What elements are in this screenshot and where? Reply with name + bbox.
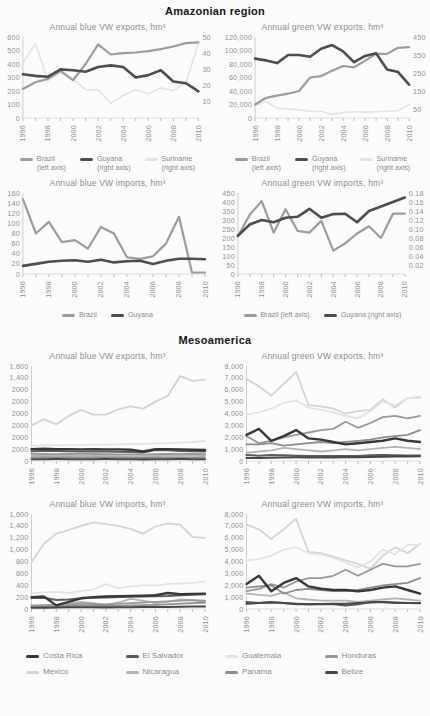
svg-text:80,000: 80,000	[229, 60, 252, 69]
svg-text:8,000: 8,000	[225, 510, 244, 519]
legend-item: Belize	[325, 667, 421, 677]
legend-item: Nicaragua	[126, 667, 222, 677]
svg-text:2000: 2000	[77, 616, 86, 633]
svg-text:100: 100	[7, 219, 20, 228]
legend-swatch	[235, 158, 248, 161]
mesoamerica-chart-grid: Annual blue VW exports, hm³ 1,6001,40020…	[0, 349, 430, 645]
svg-text:400: 400	[16, 581, 29, 590]
legend-swatch	[20, 158, 33, 161]
svg-text:400: 400	[222, 198, 235, 207]
legend-item: Guatemala	[225, 651, 321, 661]
svg-text:0.04: 0.04	[409, 252, 424, 261]
svg-text:20: 20	[11, 259, 19, 268]
svg-text:100,000: 100,000	[225, 46, 252, 55]
svg-text:1998: 1998	[257, 281, 266, 298]
chart-card-amz-blue-imports: Annual blue VW imports, hm³ 160140120100…	[0, 176, 215, 332]
legend-label: Nicaragua	[143, 667, 179, 677]
svg-text:2000: 2000	[70, 281, 79, 298]
svg-text:20,000: 20,000	[229, 100, 252, 109]
svg-text:2000: 2000	[12, 385, 29, 394]
chart-card-amz-green-exports: Annual green VW exports, hm³ 120,000100,…	[215, 20, 430, 176]
svg-text:1996: 1996	[242, 468, 251, 485]
svg-text:0: 0	[24, 605, 28, 614]
legend-item: Brazil (left axis)	[244, 310, 310, 332]
svg-text:2010: 2010	[194, 125, 203, 142]
legend-label: Brazil(left axis)	[252, 154, 281, 172]
legend-item: Guyana(right axis)	[80, 154, 131, 176]
svg-text:2008: 2008	[376, 281, 385, 298]
legend-swatch	[325, 655, 338, 658]
svg-text:2000: 2000	[12, 433, 29, 442]
svg-text:2004: 2004	[119, 125, 128, 142]
legend-swatch	[80, 158, 93, 161]
chart-title: Annual blue VW imports, hm³	[0, 178, 215, 188]
svg-text:1998: 1998	[273, 125, 282, 142]
meso-green-exports-plot: 8,0007,0006,0005,0004,0003,0002,0001,000…	[215, 361, 430, 497]
svg-text:1996: 1996	[18, 281, 27, 298]
svg-text:0.02: 0.02	[409, 261, 424, 270]
svg-text:2002: 2002	[316, 468, 325, 485]
legend-swatch	[225, 671, 238, 674]
svg-text:160: 160	[7, 189, 20, 198]
svg-text:0.08: 0.08	[409, 234, 424, 243]
svg-text:2002: 2002	[316, 616, 325, 633]
legend-item: Brazil(left axis)	[20, 154, 66, 176]
svg-text:7,000: 7,000	[225, 521, 244, 530]
svg-text:2006: 2006	[144, 125, 153, 142]
svg-text:5,000: 5,000	[225, 545, 244, 554]
region-title-mesoamerica: Mesoamerica	[0, 334, 430, 346]
amazonian-chart-grid: Annual blue VW exports, hm³ 600500400300…	[0, 20, 430, 332]
svg-text:0.18: 0.18	[409, 189, 424, 198]
svg-text:0.12: 0.12	[409, 216, 424, 225]
legend-label: Costa Rica	[43, 651, 82, 661]
svg-text:2010: 2010	[416, 468, 425, 485]
svg-text:1998: 1998	[52, 468, 61, 485]
svg-text:20: 20	[202, 81, 210, 90]
svg-text:1998: 1998	[52, 616, 61, 633]
svg-text:2006: 2006	[366, 616, 375, 633]
legend-label: Guatemala	[242, 651, 281, 661]
chart-title: Annual blue VW imports, hm³	[0, 499, 215, 509]
chart-card-meso-blue-imports: Annual blue VW imports, hm³ 1,6001,4001,…	[0, 497, 215, 645]
svg-text:8,000: 8,000	[225, 362, 244, 371]
svg-text:2004: 2004	[339, 125, 348, 142]
svg-text:1,000: 1,000	[225, 445, 244, 454]
legend-swatch	[225, 655, 238, 658]
mesoamerica-legend: Costa RicaEl SalvadorGuatemalaHondurasMe…	[0, 645, 430, 677]
svg-text:30: 30	[202, 65, 210, 74]
svg-text:0: 0	[16, 114, 20, 123]
svg-text:2000: 2000	[295, 125, 304, 142]
svg-text:50: 50	[202, 33, 210, 42]
svg-text:1998: 1998	[44, 281, 53, 298]
svg-text:2004: 2004	[126, 616, 135, 633]
svg-text:2010: 2010	[400, 281, 409, 298]
svg-text:500: 500	[7, 46, 20, 55]
svg-text:1998: 1998	[267, 616, 276, 633]
svg-text:2004: 2004	[126, 468, 135, 485]
svg-text:2002: 2002	[96, 281, 105, 298]
svg-text:0.14: 0.14	[409, 207, 424, 216]
svg-text:0: 0	[24, 457, 28, 466]
svg-text:250: 250	[222, 225, 235, 234]
svg-text:2000: 2000	[12, 409, 29, 418]
legend-label: Guyana(right axis)	[312, 154, 346, 172]
svg-text:2002: 2002	[101, 468, 110, 485]
legend-label: Belize	[342, 667, 364, 677]
svg-text:2002: 2002	[317, 125, 326, 142]
legend-label: El Salvador	[143, 651, 184, 661]
svg-text:600: 600	[7, 33, 20, 42]
svg-text:2004: 2004	[341, 616, 350, 633]
svg-text:6,000: 6,000	[225, 385, 244, 394]
svg-text:2006: 2006	[148, 281, 157, 298]
svg-text:40,000: 40,000	[229, 87, 252, 96]
svg-text:2008: 2008	[174, 281, 183, 298]
svg-text:1996: 1996	[27, 616, 36, 633]
legend-item: Brazil	[62, 310, 97, 332]
svg-text:2008: 2008	[391, 468, 400, 485]
svg-text:150: 150	[222, 243, 235, 252]
legend-item: Guyana(right axis)	[295, 154, 346, 176]
amz-green-imports-plot: 4504003503002502001501005000.180.160.140…	[215, 188, 430, 310]
svg-text:120,000: 120,000	[225, 33, 252, 42]
legend-swatch	[26, 671, 39, 674]
svg-text:300: 300	[222, 216, 235, 225]
